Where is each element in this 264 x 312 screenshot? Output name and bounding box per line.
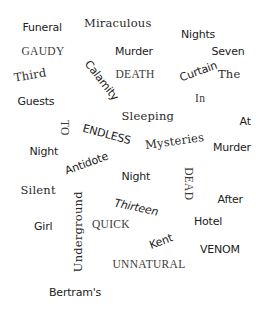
- word-nights: Nights: [181, 29, 215, 40]
- word-seven: Seven: [212, 46, 245, 57]
- word-night: Night: [30, 146, 59, 157]
- word-dead: DEAD: [182, 167, 194, 200]
- word-guests: Guests: [18, 96, 55, 107]
- word-silent: Silent: [21, 185, 56, 197]
- word-endless: ENDLESS: [81, 122, 131, 145]
- word-kent: Kent: [148, 232, 174, 251]
- word-curtain: Curtain: [178, 59, 218, 83]
- word-to: TO: [58, 120, 70, 136]
- word-death: DEATH: [116, 69, 155, 81]
- word-in: In: [195, 93, 205, 105]
- word-girl: Girl: [34, 221, 52, 232]
- word-third: Third: [13, 67, 47, 84]
- word-gaudy: GAUDY: [22, 46, 65, 58]
- word-mysteries: Mysteries: [144, 132, 204, 152]
- word-cloud: FuneralMiraculousNightsGAUDYMurderSevenT…: [0, 0, 264, 312]
- word-antidote: Antidote: [63, 150, 109, 176]
- word-the: The: [218, 69, 240, 81]
- word-night: Night: [122, 171, 151, 182]
- word-after: After: [218, 194, 243, 205]
- word-murder: Murder: [213, 142, 251, 153]
- word-unnatural: UNNATURAL: [113, 259, 186, 271]
- word-funeral: Funeral: [23, 22, 62, 33]
- word-miraculous: Miraculous: [84, 18, 152, 30]
- word-bertram-s: Bertram's: [49, 287, 101, 298]
- word-calamity: Calamity: [82, 58, 120, 102]
- word-hotel: Hotel: [194, 216, 222, 227]
- word-quick: QUICK: [92, 219, 130, 231]
- word-at: At: [240, 116, 251, 127]
- word-murder: Murder: [115, 46, 153, 57]
- word-sleeping: Sleeping: [122, 111, 175, 123]
- word-underground: Underground: [72, 191, 84, 272]
- word-venom: VENOM: [200, 244, 240, 255]
- word-thirteen: Thirteen: [113, 197, 159, 217]
